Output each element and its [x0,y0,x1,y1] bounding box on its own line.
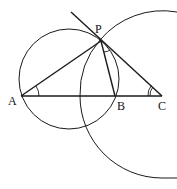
segment-ap [21,41,101,96]
label-c: C [158,100,166,112]
label-p: P [95,23,102,35]
segment-pb [101,41,115,96]
diagram-canvas [0,0,177,189]
angle-mark-p [104,50,110,52]
circle-apb [19,29,119,129]
label-a: A [8,95,17,107]
angle-mark-a [36,86,39,96]
geometry-diagram: P A B C [0,0,177,189]
angle-mark-c-outer [150,87,153,96]
label-b: B [117,100,125,112]
